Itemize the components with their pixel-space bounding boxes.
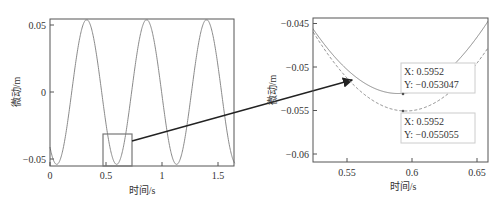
left-ylabel: 微动/m	[10, 77, 22, 108]
left-plot-frame	[50, 19, 234, 166]
datatip-solid-x: X: 0.5952	[404, 66, 444, 77]
datatip-solid-marker	[402, 93, 405, 96]
right-xtick-label: 0.65	[468, 167, 486, 178]
left-ytick-label: 0.05	[29, 20, 47, 31]
left-xtick-label: 1.5	[212, 170, 225, 181]
datatip-solid: X: 0.5952 Y: −0.053047	[401, 63, 475, 93]
datatip-solid-y: Y: −0.053047	[404, 79, 459, 90]
left-plot: 00.511.50.050−0.05 时间/s 微动/m	[10, 19, 235, 196]
right-plot: 0.550.60.65−0.045−0.05−0.055−0.06 X: 0.5…	[266, 8, 497, 192]
right-xtick-label: 0.55	[338, 167, 356, 178]
left-ytick-label: 0	[41, 87, 46, 98]
right-ytick-label: −0.045	[281, 18, 309, 29]
zoom-arrow	[132, 80, 352, 141]
right-xtick-label: 0.6	[406, 167, 419, 178]
datatip-dashed: X: 0.5952 Y: −0.055055	[401, 113, 475, 143]
right-ylabel: 微动/m	[266, 75, 278, 106]
figure: 00.511.50.050−0.05 时间/s 微动/m 0.550.60.65…	[0, 0, 503, 204]
left-ytick-label: −0.05	[23, 154, 46, 165]
left-xtick-label: 0	[48, 170, 53, 181]
left-xlabel: 时间/s	[129, 184, 156, 196]
datatip-dashed-y: Y: −0.055055	[404, 129, 459, 140]
datatip-dashed-x: X: 0.5952	[404, 116, 444, 127]
left-xtick-label: 1	[160, 170, 165, 181]
left-xtick-label: 0.5	[100, 170, 113, 181]
right-xlabel: 时间/s	[390, 180, 417, 192]
right-ytick-label: −0.06	[286, 149, 309, 160]
right-ytick-label: −0.05	[286, 62, 309, 73]
right-ytick-label: −0.055	[281, 105, 309, 116]
datatip-dashed-marker	[402, 110, 405, 113]
zoom-region-box	[103, 134, 132, 166]
left-signal-line	[50, 20, 235, 164]
